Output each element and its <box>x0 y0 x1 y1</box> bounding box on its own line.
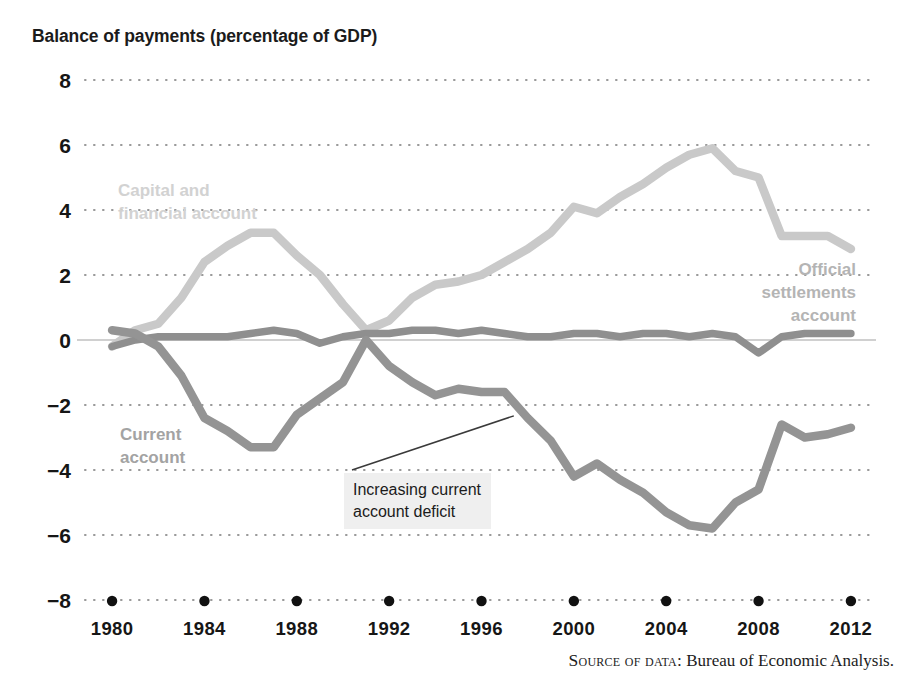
y-tick-label: −4 <box>47 459 71 482</box>
series-label-current: account <box>120 448 186 467</box>
x-tick-marker <box>476 596 486 606</box>
balance-of-payments-figure: Balance of payments (percentage of GDP) … <box>0 0 902 685</box>
x-tick-label: 2012 <box>830 618 873 639</box>
x-tick-label: 1988 <box>275 618 318 639</box>
y-tick-label: 4 <box>59 199 71 222</box>
x-tick-label: 1984 <box>183 618 226 639</box>
y-tick-label: 8 <box>59 69 71 92</box>
series-label-official: Official <box>798 260 856 279</box>
x-tick-marker <box>753 596 763 606</box>
x-tick-label: 2008 <box>737 618 780 639</box>
x-tick-marker <box>199 596 209 606</box>
series-label-capital: Capital and <box>118 181 210 200</box>
series-line <box>112 330 851 353</box>
y-tick-label: 6 <box>59 134 71 157</box>
y-tick-label: −6 <box>47 524 71 547</box>
source-value: Bureau of Economic Analysis. <box>682 651 894 670</box>
chart-plot-area: 86420−2−4−6−8198019841988199219962000200… <box>0 0 902 685</box>
series-label-official: settlements <box>762 283 856 302</box>
y-tick-label: −8 <box>47 589 71 612</box>
source-note: Source of data: Bureau of Economic Analy… <box>569 650 894 671</box>
x-tick-marker <box>384 596 394 606</box>
x-tick-marker <box>107 596 117 606</box>
series-label-official: account <box>791 306 857 325</box>
x-tick-marker <box>292 596 302 606</box>
series-line <box>112 148 851 346</box>
y-tick-label: −2 <box>47 394 71 417</box>
x-tick-marker <box>569 596 579 606</box>
x-tick-label: 1992 <box>368 618 411 639</box>
x-tick-label: 1996 <box>460 618 503 639</box>
annotation-leader-line <box>352 416 514 470</box>
x-tick-label: 1980 <box>91 618 134 639</box>
y-tick-label: 0 <box>59 329 71 352</box>
annotation-increasing-current-account-deficit: Increasing current account deficit <box>344 473 491 529</box>
source-label: Source of data: <box>569 650 682 670</box>
x-tick-label: 2000 <box>552 618 595 639</box>
y-tick-label: 2 <box>59 264 71 287</box>
x-tick-marker <box>661 596 671 606</box>
x-tick-marker <box>846 596 856 606</box>
series-label-capital: financial account <box>118 204 257 223</box>
x-tick-label: 2004 <box>645 618 688 639</box>
series-label-current: Current <box>120 425 182 444</box>
